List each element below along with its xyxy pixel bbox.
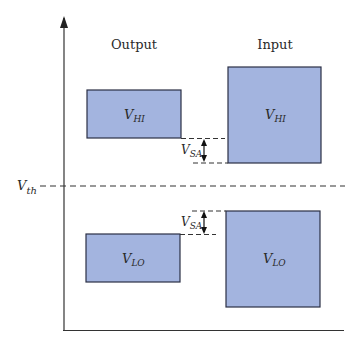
output-column-label: Output [111,37,158,52]
input-high-box: VHI [228,67,321,163]
input-column-label: Input [257,37,293,52]
high-margin-label: VSA [181,143,203,159]
output-high-box: VHI [87,90,181,138]
y-axis-arrow-icon [60,16,68,28]
low-noise-margin: VSA [180,211,226,235]
input-low-box: VLO [226,211,320,307]
output-low-box: VLO [86,234,180,282]
high-noise-margin: VSA [181,139,228,164]
noise-margin-diagram: Output Input Vth VHI VHI VLO VLO VSA V [0,0,363,348]
up-arrow-icon [201,139,207,146]
up-arrow-icon [201,211,207,218]
threshold-label: Vth [17,178,37,196]
low-margin-label: VSA [181,215,203,231]
y-axis [60,16,68,330]
